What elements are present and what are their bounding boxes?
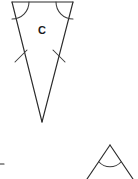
partial-triangle-group bbox=[87, 145, 133, 179]
geometry-diagram-svg: C bbox=[0, 0, 138, 179]
triangle-c-right-leg bbox=[42, 2, 73, 122]
angle-arc-icon-partial-apex bbox=[99, 162, 121, 167]
triangle-c-group: C bbox=[12, 2, 73, 122]
congruence-tick-icon-right-leg bbox=[53, 50, 65, 62]
geometry-figure-canvas: C bbox=[0, 0, 138, 179]
triangle-c-left-leg bbox=[12, 2, 42, 122]
triangle-c-label: C bbox=[38, 24, 46, 36]
